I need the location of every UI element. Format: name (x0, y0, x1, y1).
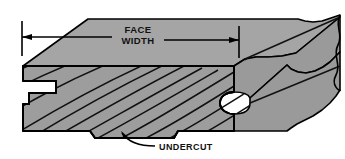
board-diagram-svg: FACE WIDTH UNDERCUT (0, 0, 345, 159)
dimension-arrowhead-left (22, 34, 32, 40)
undercut-label: UNDERCUT (159, 142, 213, 152)
face-width-label-line2: WIDTH (121, 35, 154, 46)
face-width-label-line1: FACE (125, 24, 152, 35)
technical-illustration-figure: FACE WIDTH UNDERCUT (0, 0, 345, 159)
